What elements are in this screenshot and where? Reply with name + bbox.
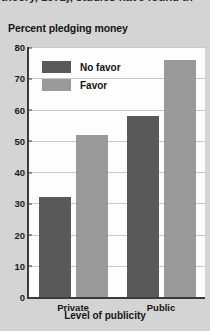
chart-legend: No favorFavor	[42, 61, 121, 91]
y-axis-tick-label: 40	[14, 167, 29, 178]
gridline	[29, 47, 205, 48]
bar-favor-public	[164, 60, 196, 298]
y-axis-tick-label: 30	[14, 198, 29, 209]
clipped-body-text-line: theory, 1972), studies have found th	[1, 0, 193, 3]
bar-no-favor-public	[127, 116, 159, 297]
legend-swatch	[42, 79, 71, 91]
y-axis-tick-label: 0	[20, 292, 29, 303]
bar-favor-private	[76, 135, 108, 298]
y-axis-tick-label: 50	[14, 135, 29, 146]
y-axis-tick-label: 60	[14, 104, 29, 115]
legend-item: Favor	[42, 79, 121, 91]
legend-label: Favor	[80, 80, 107, 91]
clipped-body-text: theory, 1972), studies have found th	[0, 0, 210, 13]
legend-item: No favor	[42, 61, 121, 73]
plot-area: No favorFavor 01020304050607080PrivatePu…	[27, 47, 205, 299]
chart-title: Percent pledging money	[8, 22, 128, 34]
legend-label: No favor	[80, 62, 121, 73]
legend-swatch	[42, 61, 71, 73]
x-axis-label: Level of publicity	[0, 310, 210, 321]
y-axis-tick-label: 20	[14, 229, 29, 240]
bar-no-favor-private	[39, 197, 71, 297]
y-axis-tick-label: 70	[14, 73, 29, 84]
y-axis-tick-label: 10	[14, 260, 29, 271]
y-axis-tick-label: 80	[14, 42, 29, 53]
